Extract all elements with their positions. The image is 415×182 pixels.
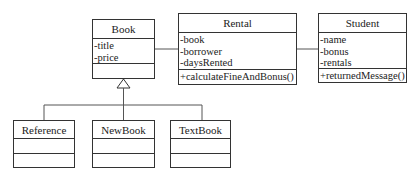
operation: +returnedMessage() (320, 69, 406, 83)
class-operations: +calculateFineAndBonus() (179, 70, 296, 84)
class-rental[interactable]: Rental -book -borrower -daysRented +calc… (178, 13, 297, 85)
class-attributes (93, 139, 154, 154)
class-attributes: -title -price (93, 39, 154, 64)
class-attributes: -name -bonus -rentals (319, 33, 406, 69)
attribute: -daysRented (180, 57, 296, 69)
class-name: Reference (14, 121, 74, 139)
attribute: -rentals (320, 57, 406, 69)
class-reference[interactable]: Reference (13, 120, 75, 168)
class-textbook[interactable]: TextBook (170, 120, 231, 168)
attribute: -name (320, 34, 406, 46)
class-attributes (14, 139, 74, 154)
operation: +calculateFineAndBonus() (180, 70, 296, 84)
attribute: -price (94, 52, 154, 64)
class-attributes: -book -borrower -daysRented (179, 33, 296, 70)
attribute: -borrower (180, 46, 296, 58)
class-name: TextBook (171, 121, 230, 139)
class-operations: +returnedMessage() (319, 69, 406, 83)
attribute: -book (180, 34, 296, 46)
class-book[interactable]: Book -title -price (92, 19, 155, 79)
class-name: Student (319, 14, 406, 33)
class-name: Book (93, 20, 154, 39)
class-name: NewBook (93, 121, 154, 139)
class-newbook[interactable]: NewBook (92, 120, 155, 168)
attribute: -bonus (320, 46, 406, 58)
class-attributes (171, 139, 230, 154)
attribute: -title (94, 40, 154, 52)
generalization-triangle-icon (117, 79, 130, 88)
class-name: Rental (179, 14, 296, 33)
class-student[interactable]: Student -name -bonus -rentals +returnedM… (318, 13, 407, 83)
